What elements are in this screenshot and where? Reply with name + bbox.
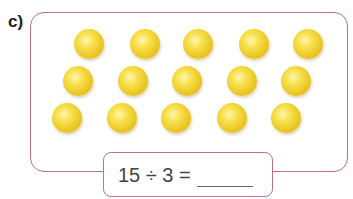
ball-icon xyxy=(217,103,247,133)
ball-icon xyxy=(172,66,202,96)
ball-icon xyxy=(271,103,301,133)
equation: 15 ÷ 3 = xyxy=(118,164,253,187)
ball-icon xyxy=(52,103,82,133)
answer-blank[interactable] xyxy=(197,168,253,187)
ball-icon xyxy=(183,29,213,59)
ball-icon xyxy=(239,29,269,59)
equation-text: 15 ÷ 3 = xyxy=(118,164,191,186)
ball-icon xyxy=(281,66,311,96)
exercise-label: c) xyxy=(8,12,23,32)
ball-icon xyxy=(118,66,148,96)
ball-icon xyxy=(63,66,93,96)
ball-icon xyxy=(227,66,257,96)
ball-icon xyxy=(293,29,323,59)
ball-icon xyxy=(130,29,160,59)
ball-icon xyxy=(74,29,104,59)
ball-icon xyxy=(107,103,137,133)
equation-box: 15 ÷ 3 = xyxy=(103,152,273,197)
ball-icon xyxy=(161,103,191,133)
